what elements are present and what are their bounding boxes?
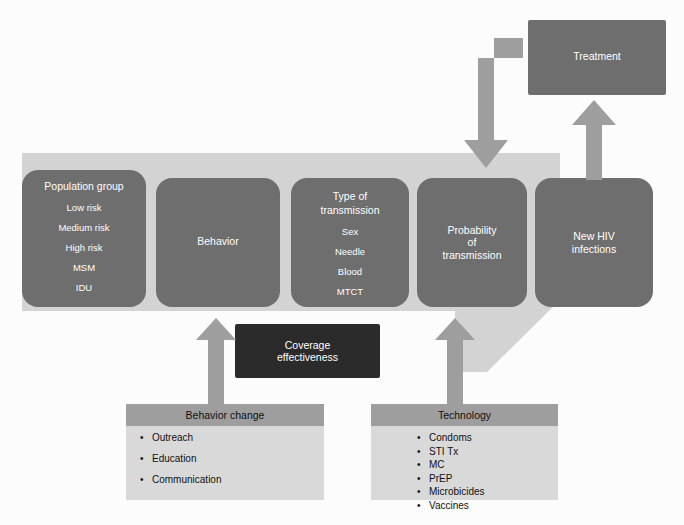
list-item[interactable]: STI Tx <box>429 446 558 457</box>
type-of-transmission-item-3: MTCT <box>337 287 363 298</box>
list-item[interactable]: Education <box>152 453 324 464</box>
node-new-hiv-infections[interactable]: New HIV infections <box>535 178 653 307</box>
node-coverage-effectiveness[interactable]: Coverage effectiveness <box>235 324 380 378</box>
new-hiv-infections-line1: New HIV <box>573 230 614 242</box>
list-item[interactable]: Condoms <box>429 432 558 443</box>
node-probability-of-transmission[interactable]: Probability of transmission <box>417 178 527 307</box>
treatment-label: Treatment <box>573 50 620 62</box>
population-group-item-0: Low risk <box>67 203 102 214</box>
technology-header: Technology <box>371 404 558 426</box>
list-item[interactable]: Outreach <box>152 432 324 443</box>
population-group-title: Population group <box>44 180 123 192</box>
node-type-of-transmission[interactable]: Type of transmission Sex Needle Blood MT… <box>291 178 409 307</box>
population-group-item-3: MSM <box>73 263 95 274</box>
type-of-transmission-item-1: Needle <box>335 247 365 258</box>
behavior-label: Behavior <box>197 235 238 247</box>
coverage-effectiveness-line2: effectiveness <box>277 351 338 363</box>
list-item[interactable]: Communication <box>152 474 324 485</box>
technology-body: Condoms STI Tx MC PrEP Microbicides Vacc… <box>371 426 558 519</box>
population-group-item-2: High risk <box>66 243 103 254</box>
list-item[interactable]: MC <box>429 459 558 470</box>
diagram-canvas: Treatment Population group Low risk Medi… <box>0 0 684 525</box>
type-of-transmission-item-2: Blood <box>338 267 362 278</box>
coverage-effectiveness-line1: Coverage <box>285 339 331 351</box>
type-of-transmission-title-line2: transmission <box>321 204 380 216</box>
list-item[interactable]: Microbicides <box>429 486 558 497</box>
probability-line3: transmission <box>443 249 502 261</box>
behavior-change-header: Behavior change <box>126 404 324 426</box>
probability-line1: Probability <box>447 224 496 236</box>
type-of-transmission-item-0: Sex <box>342 227 358 238</box>
list-item[interactable]: PrEP <box>429 473 558 484</box>
node-population-group[interactable]: Population group Low risk Medium risk Hi… <box>22 170 146 307</box>
node-behavior[interactable]: Behavior <box>156 178 280 307</box>
panel-behavior-change[interactable]: Behavior change Outreach Education Commu… <box>126 404 324 500</box>
behavior-change-body: Outreach Education Communication <box>126 426 324 501</box>
technology-list: Condoms STI Tx MC PrEP Microbicides Vacc… <box>415 432 558 511</box>
behavior-change-list: Outreach Education Communication <box>126 432 324 485</box>
population-group-item-4: IDU <box>76 283 92 294</box>
type-of-transmission-title-line1: Type of <box>333 190 367 202</box>
list-item[interactable]: Vaccines <box>429 500 558 511</box>
new-hiv-infections-line2: infections <box>572 243 616 255</box>
panel-technology[interactable]: Technology Condoms STI Tx MC PrEP Microb… <box>371 404 558 500</box>
population-group-item-1: Medium risk <box>58 223 109 234</box>
probability-line2: of <box>468 236 477 248</box>
node-treatment[interactable]: Treatment <box>528 20 666 95</box>
